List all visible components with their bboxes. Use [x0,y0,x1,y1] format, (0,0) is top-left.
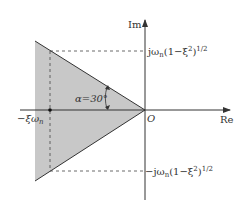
upper-pole-label: jωn(1−ξ2)1/2 [147,45,208,59]
imaginary-axis-label: Im [128,19,142,30]
real-axis-label: Re [220,114,234,125]
stable-region-shading [35,41,145,181]
s-plane-diagram: Im Re O α=30° jωn(1−ξ2)1/2 −jωn(1−ξ2)1/2… [0,0,246,217]
angle-label: α=30° [75,93,108,104]
origin-label: O [147,113,155,124]
real-part-point [48,108,52,112]
lower-pole-label: −jωn(1−ξ2)1/2 [145,165,213,179]
